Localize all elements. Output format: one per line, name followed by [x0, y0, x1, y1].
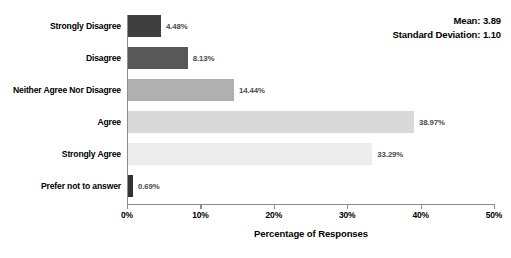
bar-value-label: 14.44% [239, 86, 265, 95]
category-label: Strongly Agree [62, 149, 121, 159]
bar-value-label: 4.48% [166, 22, 188, 31]
x-axis-tick [347, 205, 348, 209]
category-label: Disagree [86, 53, 121, 63]
bar-row: Strongly Agree33.29% [0, 143, 511, 165]
x-axis-title: Percentage of Responses [127, 228, 495, 239]
x-axis-tick-label: 20% [266, 210, 282, 220]
x-axis-tick-label: 10% [192, 210, 208, 220]
bar-value-label: 8.13% [193, 54, 215, 63]
bar [128, 143, 372, 165]
x-axis-line [127, 204, 495, 205]
category-label: Agree [97, 117, 121, 127]
bar [128, 15, 161, 37]
plot-area: 0%10%20%30%40%50% Strongly Disagree4.48%… [0, 0, 511, 258]
bar-value-label: 33.29% [377, 150, 403, 159]
x-axis-tick [494, 205, 495, 209]
x-axis-tick-label: 40% [412, 210, 428, 220]
x-axis-tick-label: 0% [121, 210, 133, 220]
bar-row: Agree38.97% [0, 111, 511, 133]
bar [128, 111, 414, 133]
bar [128, 47, 188, 69]
bar [128, 79, 234, 101]
bar-row: Prefer not to answer0.69% [0, 175, 511, 197]
x-axis-tick [274, 205, 275, 209]
category-label: Prefer not to answer [41, 181, 121, 191]
bar-row: Strongly Disagree4.48% [0, 15, 511, 37]
category-label: Neither Agree Nor Disagree [13, 85, 121, 95]
category-label: Strongly Disagree [50, 21, 121, 31]
x-axis-tick [127, 205, 128, 209]
bar [128, 175, 133, 197]
x-axis-tick [200, 205, 201, 209]
bar-chart: Mean: 3.89 Standard Deviation: 1.10 0%10… [0, 0, 511, 258]
x-axis-tick-label: 30% [339, 210, 355, 220]
x-axis-tick [421, 205, 422, 209]
bar-value-label: 38.97% [419, 118, 445, 127]
bar-value-label: 0.69% [138, 182, 160, 191]
x-axis-tick-label: 50% [486, 210, 502, 220]
bar-row: Neither Agree Nor Disagree14.44% [0, 79, 511, 101]
bar-row: Disagree8.13% [0, 47, 511, 69]
